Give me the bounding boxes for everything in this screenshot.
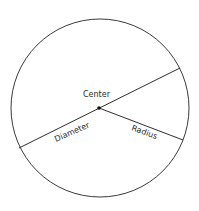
circle-diagram: Center Diameter Radius	[0, 0, 199, 211]
radius-label: Radius	[130, 123, 158, 141]
center-dot	[97, 106, 101, 110]
center-label: Center	[83, 90, 111, 99]
diameter-label: Diameter	[53, 120, 91, 144]
